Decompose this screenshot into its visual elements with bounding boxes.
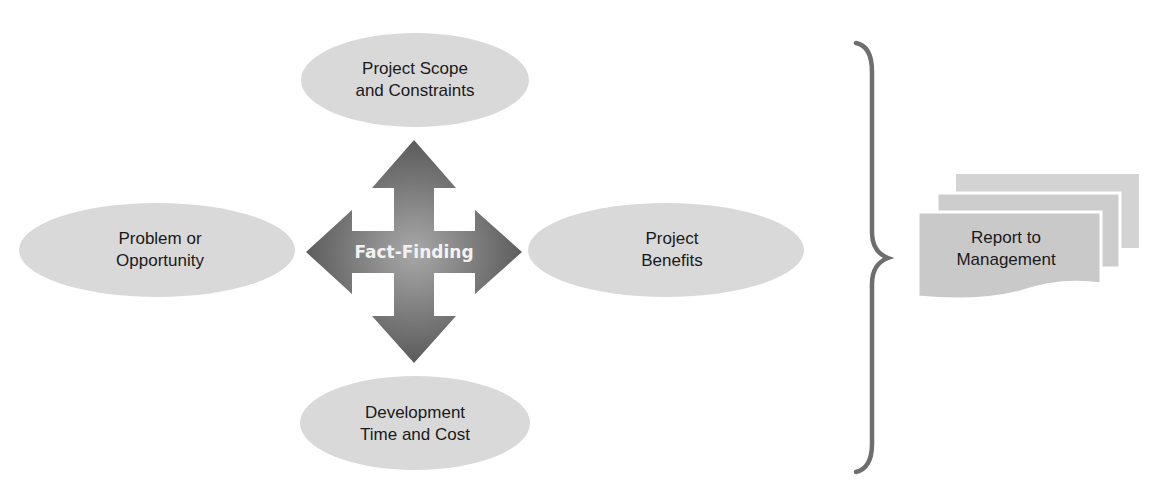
node-development-time-cost: Development Time and Cost (300, 376, 530, 470)
node-label-line-1: Development (365, 403, 465, 422)
node-label-line-1: Problem or (118, 229, 201, 248)
output-label-line-1: Report to (971, 228, 1041, 247)
document-stack-icon: Report to Management (918, 174, 1139, 299)
node-problem-opportunity: Problem or Opportunity (19, 203, 295, 297)
fact-finding-diagram: Project Scope and Constraints Problem or… (0, 0, 1164, 496)
node-project-scope: Project Scope and Constraints (301, 33, 529, 127)
node-label-line-1: Project (646, 229, 699, 248)
node-project-benefits: Project Benefits (528, 203, 804, 297)
node-label-line-2: Time and Cost (360, 425, 470, 444)
right-curly-brace-icon (856, 43, 888, 472)
center-label: Fact-Finding (354, 242, 473, 262)
node-label-line-2: Benefits (641, 251, 702, 270)
output-label-line-2: Management (956, 250, 1056, 269)
node-label-line-2: Opportunity (116, 251, 204, 270)
node-label-line-1: Project Scope (362, 59, 468, 78)
four-way-arrow-icon: Fact-Finding (306, 140, 522, 363)
node-label-line-2: and Constraints (355, 81, 474, 100)
